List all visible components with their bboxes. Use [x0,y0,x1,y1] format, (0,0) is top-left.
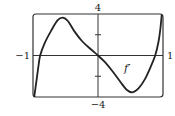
series-label-f-prime: f′ [123,62,131,75]
chart: −114−4 f′ [0,0,175,116]
y-tick-label: −4 [91,99,106,110]
x-tick-label: 1 [167,50,173,61]
x-tick-label: −1 [15,50,30,61]
y-tick-label: 4 [95,2,101,13]
